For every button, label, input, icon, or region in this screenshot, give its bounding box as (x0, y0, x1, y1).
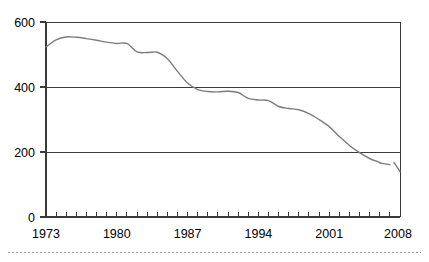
y-tick-marks (40, 22, 46, 217)
y-tick-label-200: 200 (14, 146, 35, 160)
y-tick-label-0: 0 (28, 211, 35, 225)
line-chart: 600 400 200 0 1973 1980 1987 1994 2001 2… (0, 0, 429, 262)
chart-figure: 600 400 200 0 1973 1980 1987 1994 2001 2… (0, 0, 429, 262)
x-tick-label-1987: 1987 (174, 227, 202, 241)
x-tick-label-2008: 2008 (384, 227, 412, 241)
x-tick-label-1973: 1973 (32, 227, 60, 241)
y-tick-label-400: 400 (14, 81, 35, 95)
x-tick-label-1994: 1994 (244, 227, 272, 241)
x-tick-label-2001: 2001 (315, 227, 343, 241)
x-tick-label-1980: 1980 (103, 227, 131, 241)
plot-background (46, 22, 400, 217)
y-tick-label-600: 600 (14, 16, 35, 30)
